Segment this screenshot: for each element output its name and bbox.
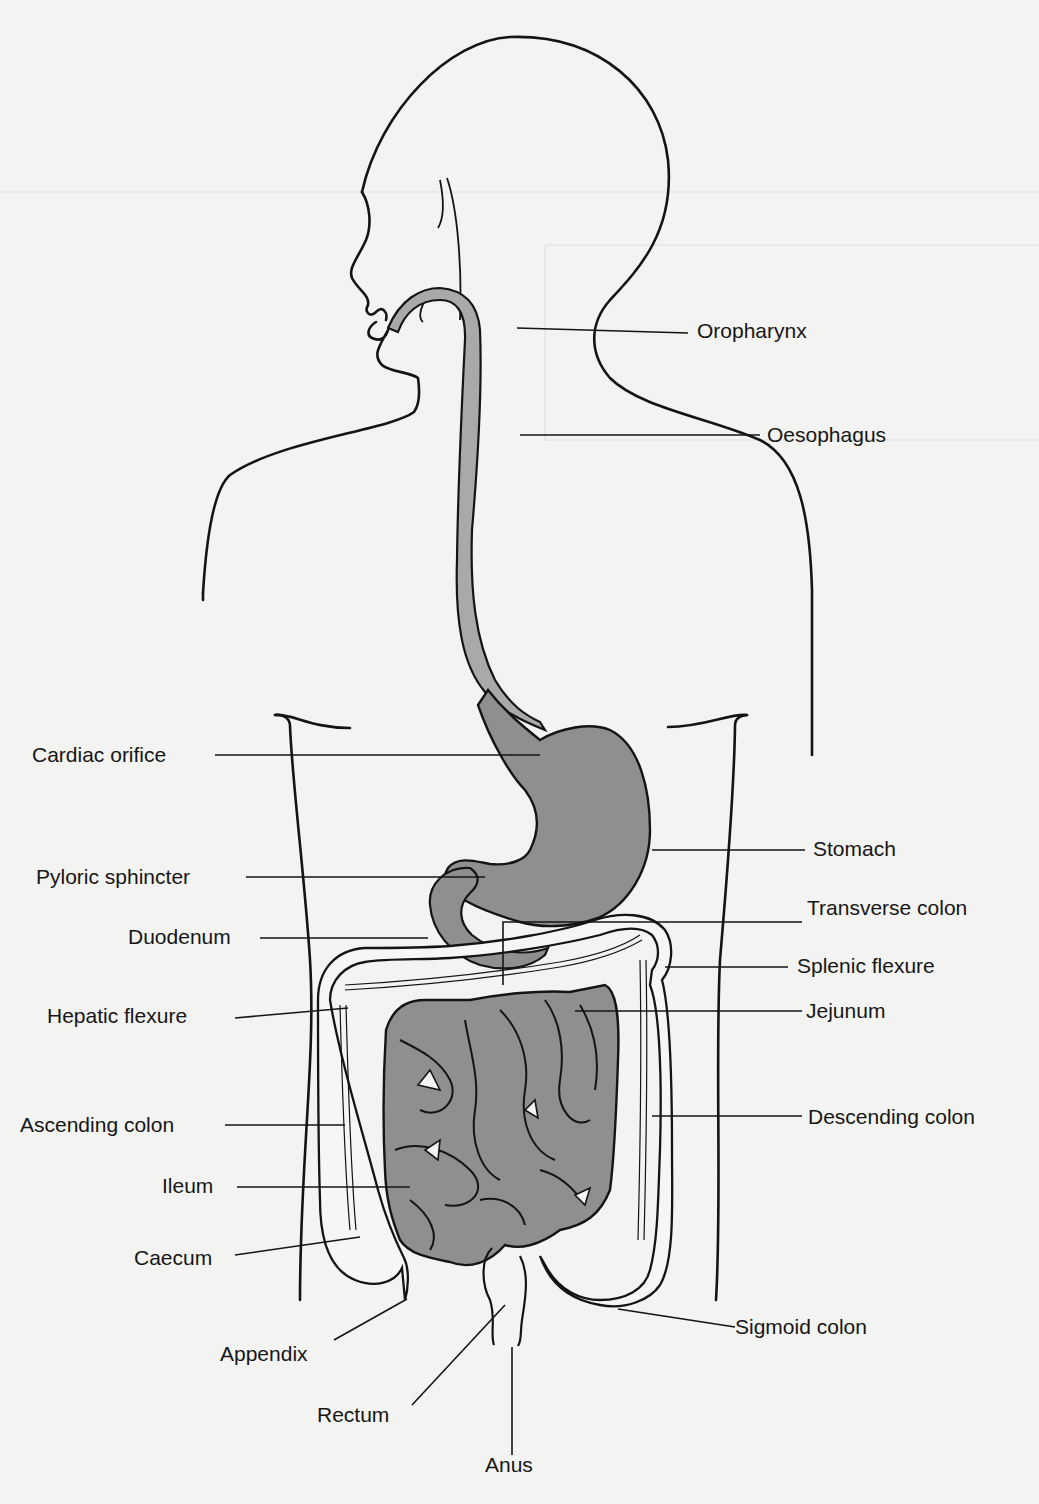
- leader-oropharynx: [517, 328, 688, 333]
- label-sigmoid-colon: Sigmoid colon: [735, 1315, 867, 1339]
- right-torso-edge: [716, 715, 747, 1300]
- label-ascending-colon: Ascending colon: [20, 1113, 174, 1137]
- label-oropharynx: Oropharynx: [697, 319, 807, 343]
- label-appendix: Appendix: [220, 1342, 308, 1366]
- bleed-through-texture: [0, 192, 1039, 440]
- rectum: [484, 1248, 526, 1346]
- face-profile: [203, 192, 419, 593]
- leader-appendix: [334, 1299, 407, 1340]
- label-oesophagus: Oesophagus: [767, 423, 886, 447]
- left-waist-notch: [275, 715, 350, 728]
- leader-rectum: [412, 1305, 505, 1405]
- leader-sigmoid-colon: [618, 1309, 735, 1327]
- label-cardiac-orifice: Cardiac orifice: [32, 743, 166, 767]
- head-outline: [362, 37, 812, 755]
- label-transverse-colon: Transverse colon: [807, 896, 967, 920]
- label-duodenum: Duodenum: [128, 925, 231, 949]
- label-descending-colon: Descending colon: [808, 1105, 975, 1129]
- label-anus: Anus: [485, 1453, 533, 1477]
- stomach: [445, 690, 650, 926]
- label-caecum: Caecum: [134, 1246, 212, 1270]
- label-ileum: Ileum: [162, 1174, 213, 1198]
- label-hepatic-flexure: Hepatic flexure: [47, 1004, 187, 1028]
- label-splenic-flexure: Splenic flexure: [797, 954, 935, 978]
- label-pyloric-sphincter: Pyloric sphincter: [36, 865, 190, 889]
- left-torso-edge: [275, 715, 311, 1300]
- small-intestine: [384, 985, 619, 1265]
- label-stomach: Stomach: [813, 837, 896, 861]
- label-jejunum: Jejunum: [806, 999, 885, 1023]
- oesophagus-tube: [388, 288, 545, 730]
- label-rectum: Rectum: [317, 1403, 389, 1427]
